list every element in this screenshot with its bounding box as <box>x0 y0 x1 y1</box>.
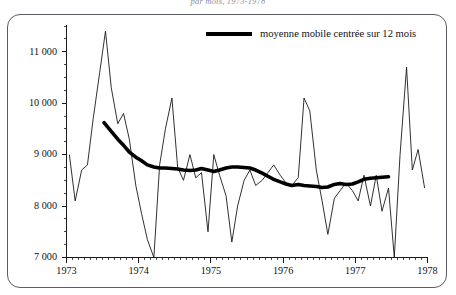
y-axis-tick-label: 7 000 <box>11 252 57 262</box>
figure-container: par mois, 1973-1978 7 0008 0009 00010 00… <box>0 0 456 295</box>
legend-line-swatch <box>206 32 252 36</box>
y-axis-tick-label: 9 000 <box>11 149 57 159</box>
y-axis-tick-label: 8 000 <box>11 201 57 211</box>
legend-entry-label: moyenne mobile centrée sur 12 mois <box>260 29 416 40</box>
x-axis-tick-label: 1974 <box>119 266 159 276</box>
x-axis-tick-label: 1977 <box>335 266 375 276</box>
figure-caption: par mois, 1973-1978 <box>0 0 456 6</box>
x-axis-tick-label: 1978 <box>408 266 448 276</box>
x-axis-tick-label: 1976 <box>263 266 303 276</box>
figure-frame <box>7 14 447 288</box>
y-axis-tick-label: 10 000 <box>11 98 57 108</box>
chart-legend: moyenne mobile centrée sur 12 mois <box>206 27 416 41</box>
y-axis-tick-label: 11 000 <box>11 47 57 57</box>
x-axis-tick-label: 1973 <box>47 266 87 276</box>
x-axis-tick-label: 1975 <box>191 266 231 276</box>
